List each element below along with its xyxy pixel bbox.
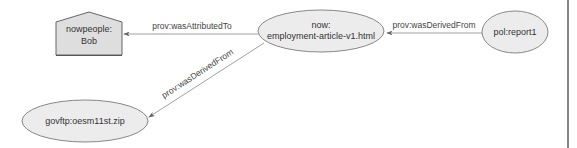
edge-was-derived-from-report[interactable]: prov:wasDerivedFrom [387,20,482,33]
edge-label: prov:wasAttributedTo [152,21,232,31]
provenance-diagram: prov:wasAttributedTo prov:wasDerivedFrom… [0,0,577,148]
edge-label: prov:wasDerivedFrom [392,20,475,30]
node-label-line1: nowpeople: [66,24,112,34]
node-label-line1: now: [311,20,330,30]
node-entity-zip[interactable]: govftp:oesm11st.zip [22,100,148,142]
edge-was-derived-from-zip[interactable]: prov:wasDerivedFrom [149,43,264,117]
node-label: pol:report1 [493,27,536,37]
node-entity-article[interactable]: now: employment-article-v1.html [258,10,384,52]
node-label-line2: Bob [81,36,97,46]
node-entity-report[interactable]: pol:report1 [482,11,548,53]
node-agent-bob[interactable]: nowpeople: Bob [56,12,122,56]
edge-label: prov:wasDerivedFrom [160,47,235,100]
node-label: govftp:oesm11st.zip [45,116,124,126]
arrow-icon [149,43,264,117]
edge-was-attributed-to[interactable]: prov:wasAttributedTo [124,21,258,34]
node-label-line2: employment-article-v1.html [267,31,375,41]
